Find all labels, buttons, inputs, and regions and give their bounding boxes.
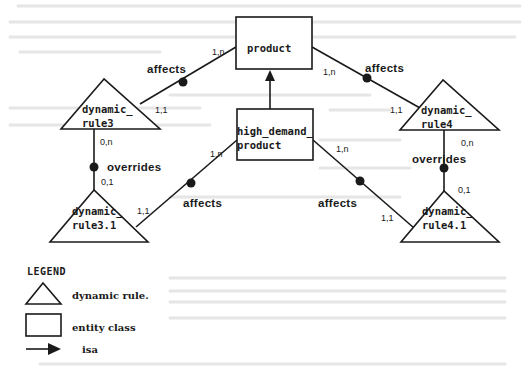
card-product-rule4: 1,n [323, 67, 336, 77]
legend-title: LEGEND [27, 266, 66, 277]
label-rule4-overrides: overrides [412, 153, 466, 165]
dot-rule3-1-affects [187, 179, 196, 188]
card-rule3-1-high-demand: 1,1 [137, 206, 150, 216]
dynamic-rule-3-label-line1: dynamic_ [82, 103, 133, 116]
dynamic-rule-3-1[interactable]: dynamic_ rule3.1 [50, 190, 148, 242]
diagram-svg: product high_demand_ product dynamic_ ru… [0, 0, 525, 375]
isa-arrowhead-icon [265, 70, 275, 81]
label-rule3-1-affects: affects [183, 197, 222, 209]
legend-rectangle-icon [26, 314, 61, 336]
legend-label-dynamic-rule: dynamic rule. [72, 290, 149, 301]
dynamic-rule-3-1-label-line2: rule3.1 [72, 219, 116, 231]
edge-rule4-1-affects-high-demand [313, 140, 414, 228]
card-rule4-overrides-top: 0,n [461, 138, 474, 148]
card-product-rule3: 1,n [212, 47, 225, 57]
card-high-demand-rule4-1: 1,n [336, 144, 349, 154]
entity-product[interactable]: product [236, 17, 312, 69]
dynamic-rule-4-1-label-line2: rule4.1 [422, 219, 466, 231]
card-high-demand-rule3-1: 1,n [210, 149, 223, 159]
label-rule3-affects: affects [147, 63, 186, 75]
label-rule4-1-affects: affects [318, 197, 357, 209]
legend: LEGEND dynamic rule. entity class isa [26, 266, 149, 355]
dot-rule3-overrides [90, 163, 99, 172]
dot-rule4-affects [363, 74, 372, 83]
legend-arrow-icon [26, 343, 61, 355]
dot-rule4-1-affects [356, 177, 365, 186]
label-rule3-overrides: overrides [107, 161, 161, 173]
card-rule3-overrides-top: 0,n [100, 137, 113, 147]
card-rule3-overrides-bottom: 0,1 [101, 177, 114, 187]
legend-label-entity-class: entity class [72, 322, 136, 333]
label-rule4-affects: affects [365, 62, 404, 74]
legend-label-isa: isa [82, 344, 98, 355]
dynamic-rule-4-1[interactable]: dynamic_ rule4.1 [401, 191, 499, 242]
dynamic-rule-3-1-label-line1: dynamic_ [72, 205, 123, 218]
dynamic-rule-4-1-label-line1: dynamic_ [422, 205, 473, 218]
card-rule4-overrides-bottom: 0,1 [458, 185, 471, 195]
card-rule4-1-high-demand: 1,1 [381, 213, 394, 223]
entity-high-demand-label-line2: product [237, 139, 281, 151]
card-rule3-product: 1,1 [155, 105, 168, 115]
dynamic-rule-3-label-line2: rule3 [82, 117, 114, 129]
dynamic-rule-4-label-line2: rule4 [421, 118, 453, 130]
legend-triangle-icon [26, 283, 61, 304]
er-diagram-canvas: product high_demand_ product dynamic_ ru… [0, 0, 525, 375]
dynamic-rule-4-label-line1: dynamic_ [421, 104, 472, 117]
dot-rule3-affects [179, 78, 188, 87]
entity-high-demand-label-line1: high_demand_ [237, 125, 314, 138]
entity-high-demand-product[interactable]: high_demand_ product [237, 109, 314, 160]
card-rule4-product: 1,1 [390, 105, 403, 115]
dynamic-rule-3[interactable]: dynamic_ rule3 [61, 79, 160, 129]
entity-product-label: product [247, 42, 291, 54]
